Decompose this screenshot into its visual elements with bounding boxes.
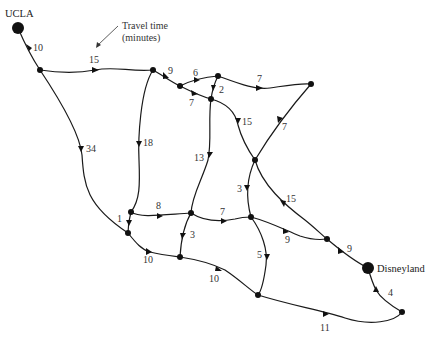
edge-label: 6 (193, 67, 198, 78)
edge-label: 11 (320, 322, 330, 333)
edge-o-disneyland (368, 268, 402, 312)
node-b[interactable] (150, 67, 156, 73)
edge-label: 9 (347, 243, 352, 254)
edge-label: 7 (189, 97, 194, 108)
edge-label: 15 (89, 54, 99, 65)
node-j[interactable] (188, 210, 194, 216)
sink-label: Disneyland (377, 263, 426, 274)
node-g[interactable] (252, 157, 258, 163)
edge-label: 34 (86, 143, 96, 154)
edge-label: 18 (143, 137, 153, 148)
edge-label: 10 (143, 254, 153, 265)
edge-label: 10 (33, 42, 43, 53)
edge-k-n (180, 257, 258, 295)
network-diagram: UCLA Disneyland Travel time (minutes) 10… (0, 0, 432, 343)
edge-label: 7 (282, 121, 287, 132)
edge-a-i (40, 70, 128, 233)
edge-c-d (180, 76, 218, 86)
edge-c-e (180, 86, 211, 99)
edge-d-f (218, 76, 311, 88)
node-a[interactable] (37, 67, 43, 73)
node-o[interactable] (399, 309, 405, 315)
edge-g-l (248, 160, 255, 217)
arrow-icon (157, 213, 163, 219)
arrow-icon (78, 146, 84, 152)
edge-label: 9 (285, 234, 290, 245)
edge-label: 3 (237, 183, 242, 194)
arrow-icon (180, 233, 186, 239)
legend-line2: (minutes) (122, 32, 160, 44)
edge-label: 5 (257, 249, 262, 260)
node-l[interactable] (248, 214, 254, 220)
edge-label: 9 (168, 65, 173, 76)
node-m[interactable] (324, 236, 330, 242)
node-f[interactable] (308, 81, 314, 87)
edge-label: 7 (257, 73, 262, 84)
edge-label: 13 (194, 152, 204, 163)
arrow-icon (211, 85, 216, 91)
node-n[interactable] (255, 292, 261, 298)
edge-label: 4 (388, 287, 393, 298)
edge-label: 10 (209, 273, 219, 284)
labels: UCLA Disneyland Travel time (minutes) 10… (5, 8, 426, 333)
arrow-icon (221, 218, 227, 224)
arrow-icon (126, 220, 132, 226)
edge-label: 7 (220, 206, 225, 217)
arrow-icon (244, 185, 250, 191)
legend-pointer (98, 26, 118, 45)
node-disneyland[interactable] (362, 262, 374, 274)
arrow-icon (264, 254, 270, 260)
node-d[interactable] (215, 73, 221, 79)
edge-label: 15 (242, 116, 252, 127)
arrow-icon (338, 247, 344, 254)
source-label: UCLA (5, 8, 34, 19)
edge-n-o (258, 295, 402, 322)
node-e[interactable] (208, 96, 214, 102)
edge-label: 2 (219, 84, 224, 95)
node-i[interactable] (125, 230, 131, 236)
edge-label: 3 (190, 229, 195, 240)
arrow-icon (256, 85, 263, 91)
edge-e-g (211, 99, 255, 160)
nodes (12, 22, 405, 315)
node-h[interactable] (128, 209, 134, 215)
edge-i-k (128, 233, 180, 257)
arrow-icon (235, 118, 241, 124)
node-k[interactable] (177, 254, 183, 260)
arrow-icon (136, 141, 142, 147)
edge-label: 1 (117, 213, 122, 224)
edge-label: 8 (156, 200, 161, 211)
legend-line1: Travel time (122, 20, 169, 31)
edge-label: 15 (286, 193, 296, 204)
arrow-icon (323, 311, 329, 317)
arrow-icon (191, 90, 198, 96)
node-ucla[interactable] (12, 22, 24, 34)
arrowheads (26, 44, 379, 317)
node-c[interactable] (177, 83, 183, 89)
arrow-icon (92, 67, 99, 73)
